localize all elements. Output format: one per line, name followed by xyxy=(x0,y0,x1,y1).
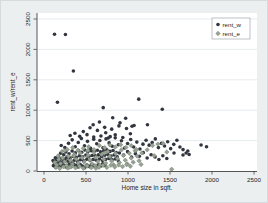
data-point-rent-w xyxy=(104,137,108,141)
data-point-rent-w xyxy=(120,139,124,143)
data-point-rent-w xyxy=(68,134,72,138)
data-point-rent-w xyxy=(186,149,190,153)
data-point-rent-w xyxy=(88,126,92,130)
data-point-rent-w xyxy=(187,153,191,157)
data-point-rent-w xyxy=(56,100,60,104)
data-point-rent-w xyxy=(166,140,170,144)
x-tick-label: 2000 xyxy=(205,176,219,183)
data-point-rent-w xyxy=(92,137,96,141)
data-point-rent-w xyxy=(135,140,139,144)
x-tick-label: 500 xyxy=(81,176,92,183)
data-point-rent-w xyxy=(101,106,105,110)
data-point-rent-w xyxy=(70,149,74,153)
data-point-rent-w xyxy=(59,144,63,148)
data-point-rent-w xyxy=(121,136,125,140)
data-point-rent-w xyxy=(72,69,76,73)
data-point-rent-w xyxy=(64,33,68,37)
data-point-rent-w xyxy=(175,138,179,142)
legend: rent_w rent_e xyxy=(212,18,250,39)
data-point-rent-w xyxy=(98,139,102,143)
data-point-rent-w xyxy=(154,137,158,141)
data-point-rent-w xyxy=(129,138,133,142)
data-point-rent-w xyxy=(80,137,84,141)
legend-label-rent-e: rent_e xyxy=(223,30,241,37)
data-point-rent-w xyxy=(85,133,89,137)
y-tick-label: 500 xyxy=(24,135,31,146)
data-point-rent-w xyxy=(157,146,161,150)
legend-marker-rent-w-icon xyxy=(216,23,220,27)
data-point-rent-w xyxy=(82,130,86,134)
data-point-rent-w xyxy=(160,107,164,111)
data-point-rent-w xyxy=(165,157,169,161)
data-point-rent-w xyxy=(111,149,115,153)
y-tick-label: 1500 xyxy=(24,72,31,86)
data-point-rent-w xyxy=(108,135,112,139)
data-point-rent-w xyxy=(132,124,136,128)
data-point-rent-w xyxy=(118,151,122,155)
data-point-rent-w xyxy=(125,127,129,131)
data-point-rent-w xyxy=(146,123,150,127)
data-point-rent-w xyxy=(99,134,103,138)
data-point-rent-w xyxy=(205,145,209,149)
data-point-rent-w xyxy=(141,142,145,146)
data-point-rent-w xyxy=(73,131,77,135)
x-tick-label: 0 xyxy=(42,176,46,183)
data-point-rent-w xyxy=(96,129,100,133)
data-point-rent-w xyxy=(113,136,117,140)
scatter-plot-figure: 0500100015002000250005001000150020002500… xyxy=(0,0,268,203)
data-point-rent-w xyxy=(53,32,57,36)
x-axis-title: Home size in sqft. xyxy=(122,184,173,192)
data-point-rent-w xyxy=(96,148,100,152)
data-point-rent-w xyxy=(117,124,121,128)
data-point-rent-w xyxy=(199,143,203,147)
data-point-rent-w xyxy=(67,142,71,146)
data-point-rent-w xyxy=(104,131,108,135)
data-point-rent-w xyxy=(111,116,115,120)
data-point-rent-w xyxy=(138,147,142,151)
data-point-rent-w xyxy=(144,138,148,142)
data-point-rent-w xyxy=(86,140,90,144)
plot-canvas: 0500100015002000250005001000150020002500… xyxy=(1,1,268,203)
data-point-rent-w xyxy=(70,138,74,142)
data-point-rent-w xyxy=(181,148,185,152)
data-point-rent-w xyxy=(181,153,185,157)
data-point-rent-w xyxy=(172,143,176,147)
data-point-rent-w xyxy=(110,127,114,131)
y-tick-label: 0 xyxy=(24,169,31,173)
data-point-rent-w xyxy=(129,132,133,136)
data-point-rent-w xyxy=(126,142,130,146)
x-tick-label: 1000 xyxy=(121,176,135,183)
graph-region: 0500100015002000250005001000150020002500… xyxy=(0,0,268,203)
data-point-rent-w xyxy=(172,151,176,155)
data-point-rent-w xyxy=(124,116,128,120)
data-point-rent-w xyxy=(91,123,95,127)
x-tick-label: 1500 xyxy=(163,176,177,183)
data-point-rent-w xyxy=(103,126,107,130)
data-point-rent-w xyxy=(161,154,165,158)
data-point-rent-w xyxy=(145,156,149,160)
y-axis-title: rent_w/rent_e xyxy=(9,72,17,112)
legend-label-rent-w: rent_w xyxy=(223,21,242,28)
y-tick-label: 2500 xyxy=(24,12,31,26)
x-tick-label: 2500 xyxy=(247,176,261,183)
data-point-rent-w xyxy=(98,120,102,124)
y-tick-label: 2000 xyxy=(24,42,31,56)
data-point-rent-w xyxy=(157,158,161,162)
data-point-rent-w xyxy=(169,147,173,151)
data-point-rent-w xyxy=(76,141,80,145)
y-tick-label: 1000 xyxy=(24,103,31,117)
data-point-rent-w xyxy=(137,97,141,101)
data-point-rent-w xyxy=(178,145,182,149)
